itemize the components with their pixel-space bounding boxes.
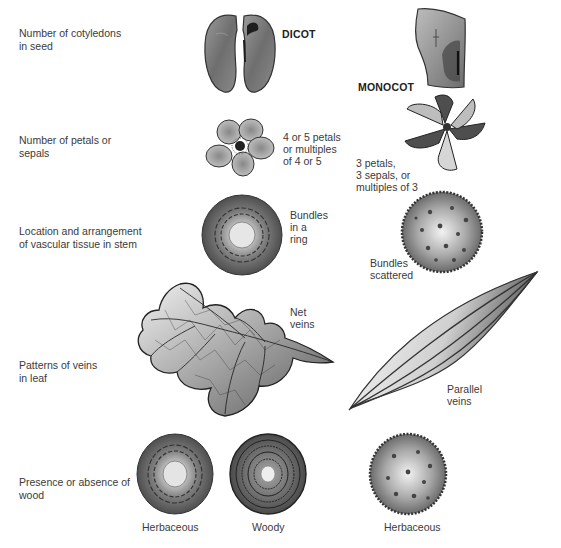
dicot-flower-illustration (205, 118, 275, 178)
annotation-line: in a (290, 221, 328, 233)
annotation-dicot-petals: 4 or 5 petals or multiples of 4 or 5 (283, 131, 341, 167)
monocot-herbaceous-stem-illustration (368, 432, 448, 517)
row-label-vascular-tissue: Location and arrangement of vascular tis… (19, 225, 142, 250)
annotation-line: ring (290, 233, 328, 245)
dicot-seed-illustration (200, 10, 280, 95)
caption-monocot-herbaceous: Herbaceous (384, 521, 441, 533)
annotation-line: Parallel (447, 383, 482, 395)
monocot-seed-illustration (410, 5, 475, 90)
row-label-line: wood (19, 489, 130, 502)
column-header-monocot: MONOCOT (358, 81, 414, 93)
annotation-dicot-stem: Bundles in a ring (290, 209, 328, 245)
row-label-wood: Presence or absence of wood (19, 476, 130, 501)
row-label-line: sepals (19, 147, 111, 160)
row-label-line: Number of cotyledons (19, 27, 121, 40)
annotation-line: scattered (370, 269, 413, 281)
column-header-dicot: DICOT (282, 28, 316, 40)
annotation-monocot-stem: Bundles scattered (370, 257, 413, 281)
row-label-line: Patterns of veins (19, 359, 97, 372)
caption-dicot-herbaceous: Herbaceous (142, 521, 199, 533)
monocot-leaf-parallel-veins-illustration (345, 270, 545, 415)
annotation-line: veins (447, 395, 482, 407)
dicot-leaf-net-veins-illustration (135, 280, 340, 420)
row-label-line: in leaf (19, 372, 97, 385)
annotation-line: 4 or 5 petals (283, 131, 341, 143)
row-label-leaf-veins: Patterns of veins in leaf (19, 359, 97, 384)
row-label-cotyledons: Number of cotyledons in seed (19, 27, 121, 52)
annotation-monocot-petals: 3 petals, 3 sepals, or multiples of 3 (356, 157, 418, 193)
annotation-line: or multiples (283, 143, 341, 155)
row-label-line: Location and arrangement (19, 225, 142, 238)
annotation-dicot-leaf: Net veins (290, 306, 315, 330)
annotation-line: 3 petals, (356, 157, 418, 169)
row-label-petals: Number of petals or sepals (19, 134, 111, 159)
row-label-line: of vascular tissue in stem (19, 238, 142, 251)
annotation-line: Bundles (290, 209, 328, 221)
annotation-line: veins (290, 318, 315, 330)
dicot-herbaceous-stem-illustration (135, 432, 215, 517)
annotation-line: 3 sepals, or (356, 169, 418, 181)
annotation-line: of 4 or 5 (283, 155, 341, 167)
annotation-line: Net (290, 306, 315, 318)
row-label-line: Number of petals or (19, 134, 111, 147)
dicot-stem-ring-illustration (200, 193, 285, 278)
annotation-line: multiples of 3 (356, 181, 418, 193)
dicot-woody-stem-illustration (228, 432, 308, 517)
row-label-line: in seed (19, 40, 121, 53)
caption-dicot-woody: Woody (252, 521, 285, 533)
annotation-line: Bundles (370, 257, 413, 269)
row-label-line: Presence or absence of (19, 476, 130, 489)
annotation-monocot-leaf: Parallel veins (447, 383, 482, 407)
